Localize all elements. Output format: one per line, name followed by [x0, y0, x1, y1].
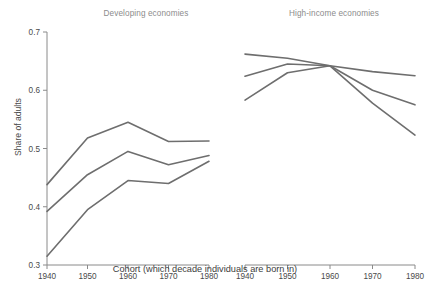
plot-area: 0.30.40.50.60.71940195019601970198019401… — [0, 0, 428, 285]
x-axis-label: Cohort (which decade individuals are bor… — [40, 264, 370, 274]
y-tick-label: 0.7 — [29, 28, 41, 37]
y-axis-label: Share of adults — [13, 67, 23, 187]
data-series-layer — [47, 54, 415, 256]
y-tick-label: 0.4 — [29, 203, 41, 212]
y-tick-label: 0.5 — [29, 145, 41, 154]
x-tick-label: 1980 — [406, 272, 425, 281]
chart-figure: Developing economies High-income economi… — [0, 0, 428, 285]
series-line-lower — [245, 66, 415, 135]
series-line-upper — [245, 54, 415, 76]
y-tick-label: 0.3 — [29, 261, 41, 270]
y-tick-label: 0.6 — [29, 86, 41, 95]
series-line-lower — [47, 161, 209, 256]
axes — [43, 32, 415, 269]
tick-labels: 0.30.40.50.60.71940195019601970198019401… — [29, 28, 425, 281]
